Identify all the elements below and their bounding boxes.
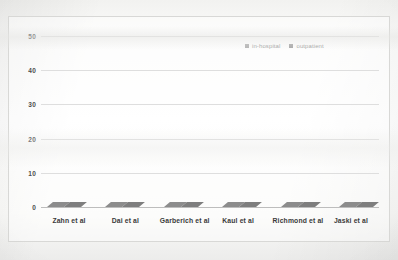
y-tick-label: 0	[32, 204, 36, 211]
y-tick-label: 20	[28, 135, 36, 142]
bar-group	[281, 36, 315, 207]
x-axis-label: Dai et al	[103, 217, 147, 231]
legend-item: outpatient	[289, 43, 323, 49]
x-axis-label: Zahn et al	[47, 217, 91, 231]
x-axis-label: Kaul et al	[216, 217, 260, 231]
bar-chart: 50 40 30 20 10 0 Zahn et alDai et alGarb…	[8, 16, 390, 242]
bar-groups	[41, 36, 379, 207]
legend-item: in-hospital	[245, 43, 280, 49]
bar-group	[339, 36, 373, 207]
chart-legend: in-hospitaloutpatient	[245, 43, 324, 49]
legend-label: in-hospital	[252, 43, 280, 49]
y-tick-label: 40	[28, 67, 36, 74]
bar-group	[222, 36, 256, 207]
slide-photo: 50 40 30 20 10 0 Zahn et alDai et alGarb…	[0, 0, 398, 260]
x-axis-label: Richmond et al	[273, 217, 317, 231]
legend-label: outpatient	[296, 43, 323, 49]
x-axis-label: Jaski et al	[329, 217, 373, 231]
square-marker-icon	[245, 44, 249, 48]
bar-group	[164, 36, 198, 207]
x-axis-labels: Zahn et alDai et alGarberich et alKaul e…	[41, 217, 379, 231]
plot-area: 50 40 30 20 10 0	[41, 36, 379, 207]
x-axis-line: 0	[41, 207, 379, 208]
y-tick-label: 30	[28, 101, 36, 108]
x-axis-label: Garberich et al	[160, 217, 204, 231]
y-tick-label: 10	[28, 169, 36, 176]
y-tick-label: 50	[28, 33, 36, 40]
bar-group	[105, 36, 139, 207]
square-marker-icon	[289, 44, 293, 48]
bar-group	[47, 36, 81, 207]
